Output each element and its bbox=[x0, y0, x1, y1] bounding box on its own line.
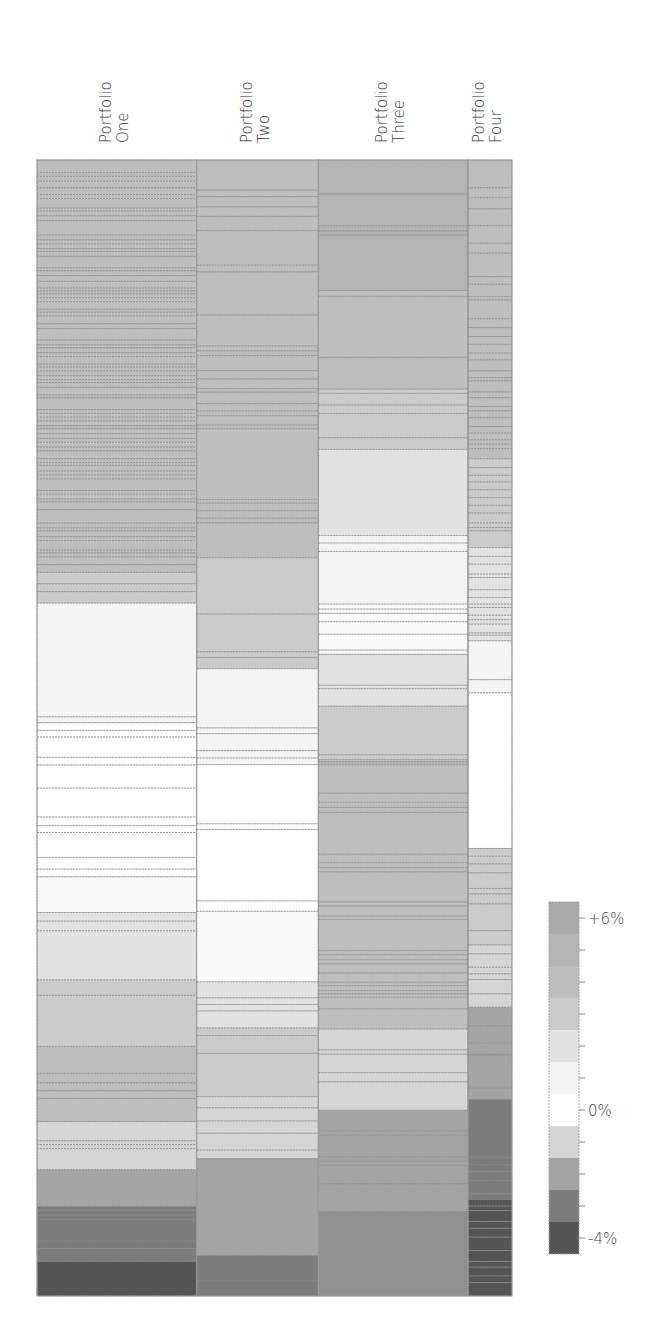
holding-stripe bbox=[37, 380, 197, 383]
holding-stripe bbox=[37, 730, 197, 737]
holding-stripe bbox=[37, 475, 197, 479]
holding-stripe bbox=[468, 378, 512, 381]
column-label: PortfolioFour bbox=[470, 81, 505, 143]
holding-stripe bbox=[468, 931, 512, 945]
holding-stripe bbox=[318, 982, 468, 985]
holding-stripe bbox=[37, 429, 197, 434]
holding-stripe bbox=[468, 1237, 512, 1250]
holding-stripe bbox=[197, 190, 319, 197]
holding-stripe bbox=[468, 297, 512, 300]
color-legend: +6%0%-4% bbox=[549, 902, 624, 1254]
holding-stripe bbox=[318, 906, 468, 916]
holding-stripe bbox=[468, 300, 512, 319]
holding-stripe bbox=[318, 613, 468, 621]
holding-stripe bbox=[197, 371, 319, 379]
holding-stripe bbox=[37, 288, 197, 291]
holding-stripe bbox=[37, 1141, 197, 1145]
holding-stripe bbox=[318, 916, 468, 919]
holding-stripe bbox=[37, 1249, 197, 1262]
holding-stripe bbox=[318, 689, 468, 707]
holding-stripe bbox=[318, 793, 468, 802]
holding-stripe bbox=[468, 243, 512, 253]
holding-stripe bbox=[197, 379, 319, 388]
holding-stripe bbox=[468, 490, 512, 498]
holding-stripe bbox=[37, 340, 197, 345]
holding-stripe bbox=[318, 955, 468, 960]
holding-stripe bbox=[197, 765, 319, 824]
holding-stripe bbox=[468, 1276, 512, 1283]
holding-stripe bbox=[468, 1026, 512, 1043]
column-labels: PortfolioOnePortfolioTwoPortfolioThreePo… bbox=[97, 81, 505, 143]
holding-stripe bbox=[197, 1150, 319, 1158]
holding-stripe bbox=[468, 967, 512, 974]
holding-stripe bbox=[197, 657, 319, 668]
holding-stripe bbox=[37, 541, 197, 551]
holding-stripe bbox=[197, 315, 319, 346]
holding-stripe bbox=[468, 440, 512, 444]
holding-stripe bbox=[37, 1145, 197, 1149]
holding-stripe bbox=[468, 888, 512, 894]
holding-stripe bbox=[37, 383, 197, 388]
holding-stripe bbox=[318, 973, 468, 982]
holding-stripe bbox=[318, 389, 468, 393]
holding-stripe bbox=[37, 459, 197, 463]
holding-stripe bbox=[197, 160, 319, 190]
holding-stripe bbox=[197, 523, 319, 558]
holding-stripe bbox=[37, 345, 197, 348]
holding-stripe bbox=[468, 284, 512, 296]
holding-stripe bbox=[37, 371, 197, 376]
holding-stripe bbox=[37, 550, 197, 553]
holding-stripe bbox=[37, 211, 197, 216]
legend-band bbox=[549, 1094, 579, 1126]
holding-stripe bbox=[468, 578, 512, 590]
holding-stripe bbox=[468, 680, 512, 693]
holding-stripe bbox=[318, 1285, 468, 1296]
holding-stripe bbox=[37, 471, 197, 475]
holding-stripe bbox=[468, 624, 512, 633]
holding-stripe bbox=[37, 413, 197, 417]
holding-stripe bbox=[37, 592, 197, 604]
holding-stripe bbox=[318, 920, 468, 951]
holding-stripe bbox=[318, 1009, 468, 1029]
holding-stripe bbox=[197, 499, 319, 503]
holding-stripe bbox=[197, 558, 319, 614]
holding-stripe bbox=[37, 572, 197, 584]
holding-stripe bbox=[468, 360, 512, 371]
holding-stripe bbox=[37, 216, 197, 221]
holding-stripe bbox=[468, 418, 512, 427]
holding-stripe bbox=[318, 755, 468, 760]
holding-stripe bbox=[318, 964, 468, 973]
holding-stripe bbox=[197, 824, 319, 830]
holding-stripe bbox=[318, 634, 468, 650]
holding-stripe bbox=[37, 240, 197, 244]
holding-stripe bbox=[37, 826, 197, 833]
holding-stripe bbox=[318, 449, 468, 535]
holding-stripe bbox=[37, 302, 197, 310]
holding-stripe bbox=[197, 1004, 319, 1011]
holding-stripe bbox=[37, 817, 197, 826]
holding-stripe bbox=[468, 381, 512, 392]
holding-stripe bbox=[37, 434, 197, 439]
holding-stripe bbox=[197, 1011, 319, 1028]
holding-stripe bbox=[468, 574, 512, 577]
holding-stripe bbox=[37, 603, 197, 717]
holding-stripe bbox=[318, 802, 468, 807]
holding-stripe bbox=[197, 1053, 319, 1096]
holding-stripe bbox=[37, 421, 197, 426]
holding-stripe bbox=[318, 1073, 468, 1082]
holding-stripe bbox=[468, 604, 512, 607]
holding-stripe bbox=[318, 1184, 468, 1212]
holding-stripe bbox=[468, 344, 512, 353]
holding-stripe bbox=[468, 277, 512, 285]
holding-stripe bbox=[318, 1161, 468, 1165]
holding-stripe bbox=[37, 291, 197, 294]
holding-stripe bbox=[197, 429, 319, 500]
portfolio-returns-chart: PortfolioOnePortfolioTwoPortfolioThreePo… bbox=[0, 0, 666, 1336]
holding-stripe bbox=[468, 1157, 512, 1165]
holding-stripe bbox=[468, 1206, 512, 1210]
legend-band bbox=[549, 966, 579, 998]
column-label-line: Portfolio bbox=[97, 81, 115, 143]
holding-stripe bbox=[37, 1261, 197, 1296]
holding-stripe bbox=[318, 291, 468, 297]
portfolio-column bbox=[318, 160, 468, 1296]
